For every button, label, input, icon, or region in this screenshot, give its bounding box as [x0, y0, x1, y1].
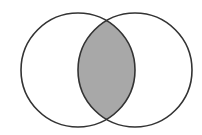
venn-diagram	[0, 0, 202, 135]
